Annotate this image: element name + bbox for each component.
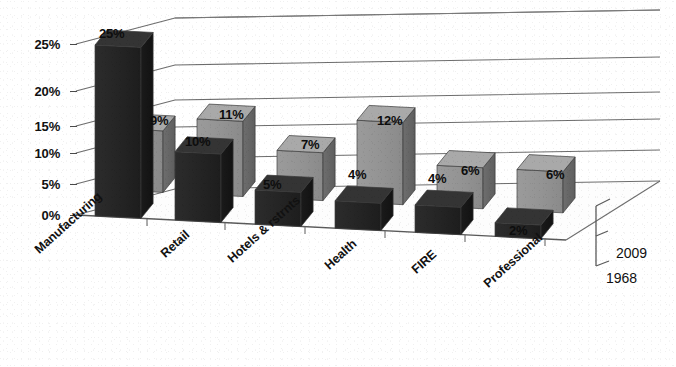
ytick-label-10: 10% <box>14 146 60 161</box>
ytick-mark-25 <box>70 44 77 45</box>
value-label-1968-hotels: 5% <box>263 177 281 192</box>
value-label-2009-hotels: 7% <box>301 137 319 152</box>
ytick-label-20: 20% <box>14 84 60 99</box>
ytick-label-5: 5% <box>14 177 60 192</box>
value-label-2009-fire: 6% <box>461 163 479 178</box>
value-label-2009-retail: 11% <box>219 107 244 122</box>
ytick-label-0: 0% <box>14 208 60 223</box>
ytick-label-15: 15% <box>14 119 60 134</box>
bar-1968-health <box>335 186 393 231</box>
value-label-1968-fire: 4% <box>428 171 446 186</box>
chart-canvas: 25% 20% 15% 10% 5% 0% Manufacturing Reta… <box>0 0 676 367</box>
value-label-2009-manufacturing: 9% <box>150 113 168 128</box>
chart-3d-scene <box>0 0 676 367</box>
value-label-2009-health: 12% <box>377 113 402 128</box>
bar-1968-retail <box>175 137 233 223</box>
year-axis-label-2009: 2009 <box>616 245 647 261</box>
year-axis-label-1968: 1968 <box>606 270 637 286</box>
value-label-1968-health: 4% <box>348 167 366 182</box>
value-label-2009-professional: 6% <box>546 167 564 182</box>
bar-1968-fire <box>415 190 473 235</box>
bar-1968-manufacturing <box>95 30 153 218</box>
value-label-1968-manufacturing: 25% <box>99 26 124 41</box>
ytick-label-25: 25% <box>14 37 60 52</box>
value-label-1968-retail: 10% <box>185 134 210 149</box>
ytick-mark-15 <box>70 126 77 127</box>
bar-2009-professional <box>517 155 575 213</box>
ytick-mark-5 <box>70 184 77 185</box>
ytick-mark-20 <box>70 91 77 92</box>
value-label-1968-professional: 2% <box>509 223 527 238</box>
ytick-mark-10 <box>70 153 77 154</box>
